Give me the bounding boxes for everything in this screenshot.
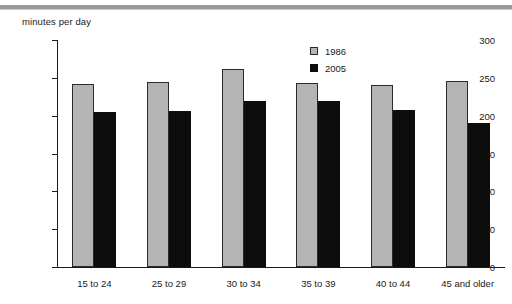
x-category-label: 30 to 34	[226, 278, 260, 289]
y-axis-line	[57, 40, 58, 267]
bar-1986-40-to-44	[371, 85, 393, 267]
x-category-label: 25 to 29	[152, 278, 186, 289]
y-tick-mark	[52, 267, 57, 268]
y-tick-label: 0	[490, 262, 495, 273]
bar-2005-40-to-44	[393, 110, 415, 267]
y-tick-label: 200	[479, 110, 495, 121]
bar-1986-30-to-34	[222, 69, 244, 267]
bar-1986-25-to-29	[147, 82, 169, 267]
bar-2005-45-and-older	[468, 123, 490, 267]
y-tick-mark	[52, 40, 57, 41]
x-category-label: 35 to 39	[301, 278, 335, 289]
bar-1986-15-to-24	[72, 84, 94, 267]
y-tick-label: 250	[479, 72, 495, 83]
bar-1986-35-to-39	[296, 83, 318, 267]
y-tick-mark	[52, 229, 57, 230]
y-tick-mark	[52, 154, 57, 155]
bar-2005-25-to-29	[169, 111, 191, 267]
x-category-label: 15 to 24	[77, 278, 111, 289]
x-category-label: 40 to 44	[376, 278, 410, 289]
y-tick-mark	[52, 78, 57, 79]
bar-2005-35-to-39	[318, 101, 340, 267]
bar-1986-45-and-older	[446, 81, 468, 267]
y-tick-label: 300	[479, 35, 495, 46]
y-axis-title: minutes per day	[22, 16, 91, 27]
y-tick-mark	[52, 191, 57, 192]
bar-2005-15-to-24	[94, 112, 116, 267]
x-axis-line	[57, 267, 505, 268]
x-category-label: 45 and older	[441, 278, 494, 289]
plot-area: 050100150200250300 15 to 2425 to 2930 to…	[57, 40, 505, 267]
bar-chart: minutes per day 1986 2005 05010015020025…	[0, 0, 512, 304]
bar-2005-30-to-34	[244, 101, 266, 267]
top-divider-rule	[0, 5, 512, 10]
y-tick-mark	[52, 116, 57, 117]
